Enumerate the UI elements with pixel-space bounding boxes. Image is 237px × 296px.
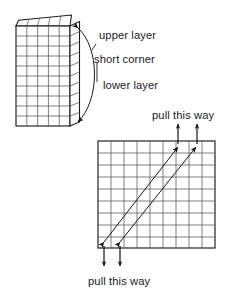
bottom-grid-outline (98, 141, 215, 248)
label-short-corner: short corner (94, 53, 155, 65)
curved-callout-arrow (78, 28, 95, 122)
bottom-figure-sheared-grid: pull this way pull this way (88, 109, 215, 287)
label-pull-this-way-top: pull this way (152, 109, 215, 121)
fold-strip (70, 22, 80, 127)
upper-flap (16, 15, 72, 26)
label-lower-layer: lower layer (103, 79, 158, 91)
upper-flap-outline (16, 15, 72, 26)
diagram-canvas: upper layer short corner lower layer (0, 0, 237, 296)
label-pull-this-way-bottom: pull this way (88, 275, 151, 287)
figure-root: upper layer short corner lower layer (0, 0, 237, 296)
top-figure-folded-sheet: upper layer short corner lower layer (16, 15, 158, 126)
label-upper-layer: upper layer (99, 29, 156, 41)
main-panel-grid (16, 26, 70, 126)
short-corner-leader (92, 44, 96, 50)
